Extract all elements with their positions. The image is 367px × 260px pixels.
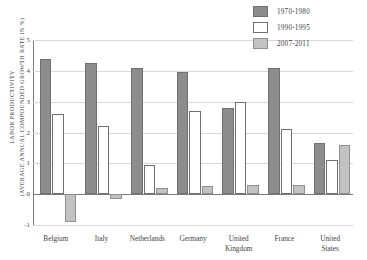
bar-group — [131, 40, 168, 225]
y-tick-label: 1 — [8, 159, 30, 167]
legend-item: 1970-1980 — [253, 4, 363, 19]
y-tick-label: -1 — [8, 221, 30, 229]
bar — [40, 59, 52, 195]
bar — [293, 185, 305, 194]
bar-group — [268, 40, 305, 225]
y-tick-label: 2 — [8, 129, 30, 137]
bar — [52, 114, 64, 194]
legend-label: 1990-1995 — [277, 24, 310, 32]
bar — [235, 102, 247, 195]
legend-swatch-icon — [253, 38, 268, 49]
bar — [314, 143, 326, 194]
y-tick-label: 4 — [8, 67, 30, 75]
bar — [98, 126, 110, 194]
y-tick-label: 5 — [8, 36, 30, 44]
plot-area: -1012345BelgiumItalyNetherlandsGermanyUn… — [33, 40, 353, 225]
bar — [339, 145, 351, 194]
bar — [144, 165, 156, 194]
gridline — [33, 225, 353, 226]
bar — [156, 188, 168, 194]
bar — [222, 108, 234, 194]
legend-swatch-icon — [253, 22, 268, 33]
bar — [326, 160, 338, 194]
y-tick-label: 3 — [8, 98, 30, 106]
bar-chart: LABOR PRODUCTIVITY (AVERAGE ANNUAL COMPO… — [0, 0, 367, 260]
bar-group — [314, 40, 351, 225]
bar-group — [222, 40, 259, 225]
bar — [65, 194, 77, 222]
legend-item: 2007-2011 — [253, 36, 363, 51]
bar — [177, 72, 189, 194]
legend-label: 1970-1980 — [277, 8, 310, 16]
bar-group — [177, 40, 214, 225]
legend-label: 2007-2011 — [277, 40, 310, 48]
bar — [281, 129, 293, 194]
bar-group — [85, 40, 122, 225]
legend-item: 1990-1995 — [253, 20, 363, 35]
legend: 1970-1980 1990-1995 2007-2011 — [253, 4, 363, 52]
bar — [85, 63, 97, 194]
legend-swatch-icon — [253, 6, 268, 17]
bar — [189, 111, 201, 194]
bar — [268, 68, 280, 194]
bar — [110, 194, 122, 199]
x-tick-label: United States — [301, 234, 359, 253]
bar — [131, 68, 143, 194]
bar — [202, 186, 214, 194]
bar-group — [40, 40, 77, 225]
y-tick-label: 0 — [8, 190, 30, 198]
bar — [247, 185, 259, 194]
